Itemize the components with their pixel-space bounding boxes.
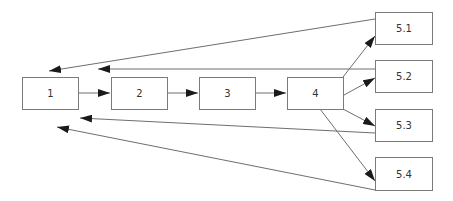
node-label: 5.4 (396, 169, 412, 180)
node-label: 2 (136, 88, 142, 99)
node-3: 3 (199, 77, 256, 110)
node-5-4: 5.4 (375, 157, 433, 191)
node-label: 5.1 (396, 23, 412, 34)
edge-4-to-5-2 (344, 78, 375, 95)
edge-5-1-to-1 (49, 19, 375, 71)
node-label: 1 (47, 88, 53, 99)
edge-4-to-5-1 (343, 36, 375, 77)
node-label: 3 (224, 88, 230, 99)
node-4: 4 (287, 77, 344, 110)
edge-5-3-to-1 (80, 118, 375, 133)
node-5-2: 5.2 (375, 60, 433, 93)
edge-4-to-5-4 (320, 109, 375, 181)
node-2: 2 (111, 77, 168, 110)
node-5-3: 5.3 (375, 109, 433, 142)
node-label: 5.2 (396, 71, 412, 82)
node-label: 4 (312, 88, 318, 99)
node-label: 5.3 (396, 120, 412, 131)
edge-4-to-5-3 (343, 109, 375, 126)
node-1: 1 (22, 77, 79, 110)
edge-5-4-to-1 (57, 127, 375, 190)
node-5-1: 5.1 (375, 12, 433, 45)
